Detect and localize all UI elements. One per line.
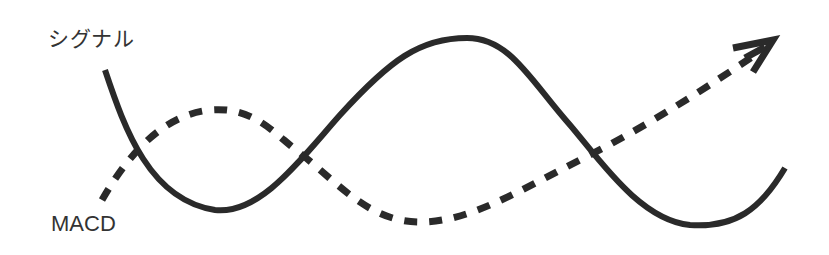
arrow-head-icon <box>733 40 773 72</box>
macd-line <box>102 55 755 222</box>
signal-line <box>105 38 785 225</box>
macd-signal-diagram <box>0 0 829 255</box>
